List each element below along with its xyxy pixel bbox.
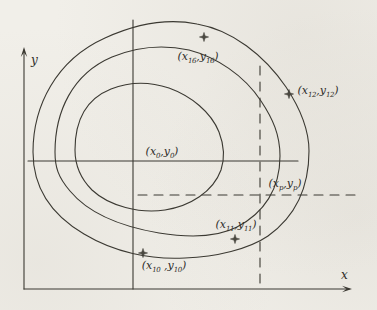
label-text: ,y [316,84,326,97]
label-sub: 11 [244,225,252,233]
y-axis-label: y [31,53,38,67]
diagram-canvas [0,0,377,310]
star-marker-x16y16-icon [199,32,208,41]
point-label-xpyp: (xp,yp) [269,177,302,190]
contour-curve-middle [55,47,280,236]
label-text: ,y [196,50,206,63]
label-sub: 16 [188,57,196,65]
star-marker-x11y11-icon [230,234,239,243]
label-text: ) [334,84,338,97]
label-text: ,y [160,259,173,272]
label-text: ) [174,145,178,158]
point-label-x0y0: (x0,y0) [146,145,179,158]
contour-diagram: y x (x0,y0) (x16,y16) (x12,y12) (xp,yp) … [0,0,377,310]
label-text: (x [146,145,157,158]
label-sub: 11 [226,225,234,233]
label-sub: 12 [308,91,316,99]
label-text: ) [297,177,301,190]
label-text: ) [182,259,186,272]
label-text: (x [142,259,153,272]
label-sub: 10 [152,266,160,274]
label-text: (x [177,50,188,63]
label-sub: 16 [206,57,214,65]
point-label-x16y16: (x16,y16) [177,50,218,63]
point-label-x10y10: (x10 ,y10) [142,259,187,272]
point-label-x11y11: (x11,y11) [215,218,256,231]
label-text: ,y [160,145,170,158]
label-text: (x [215,218,226,231]
x-axis-label: x [341,268,348,282]
contour-curve-outer [33,22,309,259]
label-text: ) [214,50,218,63]
point-label-x12y12: (x12,y12) [297,84,338,97]
label-text: ,y [283,177,293,190]
label-sub: 12 [326,91,334,99]
label-text: (x [269,177,280,190]
label-text: ,y [234,218,244,231]
label-text: (x [297,84,308,97]
label-text: ) [252,218,256,231]
